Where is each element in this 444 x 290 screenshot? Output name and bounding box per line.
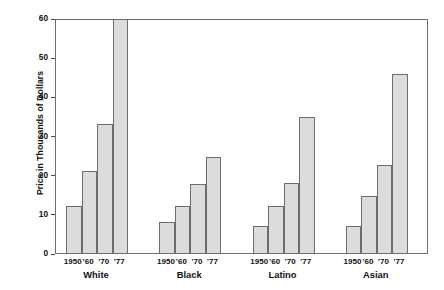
x-axis-tick-label: '77 <box>199 257 227 266</box>
y-tick-label: 0 <box>43 248 48 258</box>
bar <box>392 74 408 253</box>
x-axis-group-label: Asian <box>336 269 416 280</box>
y-tick-label: 50 <box>39 52 48 62</box>
x-axis-group-label: Latino <box>243 269 323 280</box>
plot-area <box>55 19 428 254</box>
bar <box>346 226 362 253</box>
x-axis-tick-label: '77 <box>385 257 413 266</box>
y-tick-label: 10 <box>39 209 48 219</box>
x-axis-group-label: White <box>56 269 136 280</box>
x-axis-tick-label: '77 <box>105 257 133 266</box>
y-tick-label: 40 <box>39 91 48 101</box>
bar <box>299 117 315 253</box>
bar <box>253 226 269 253</box>
x-axis-tick-label: '77 <box>292 257 320 266</box>
y-tick-label: 30 <box>39 131 48 141</box>
bar <box>159 222 175 253</box>
bar <box>377 165 393 253</box>
y-tick-label: 20 <box>39 170 48 180</box>
bar <box>97 124 113 253</box>
bar-chart: Price in Thousands of Dollars 0102030405… <box>0 0 444 290</box>
bar <box>190 184 206 253</box>
bar <box>284 183 300 253</box>
bar <box>206 157 222 253</box>
bar <box>361 196 377 253</box>
bar <box>175 206 191 253</box>
bar <box>268 206 284 253</box>
bar <box>113 19 129 253</box>
x-axis-group-label: Black <box>149 269 229 280</box>
bar <box>82 171 98 253</box>
bar <box>66 206 82 253</box>
y-tick-label: 60 <box>39 13 48 23</box>
